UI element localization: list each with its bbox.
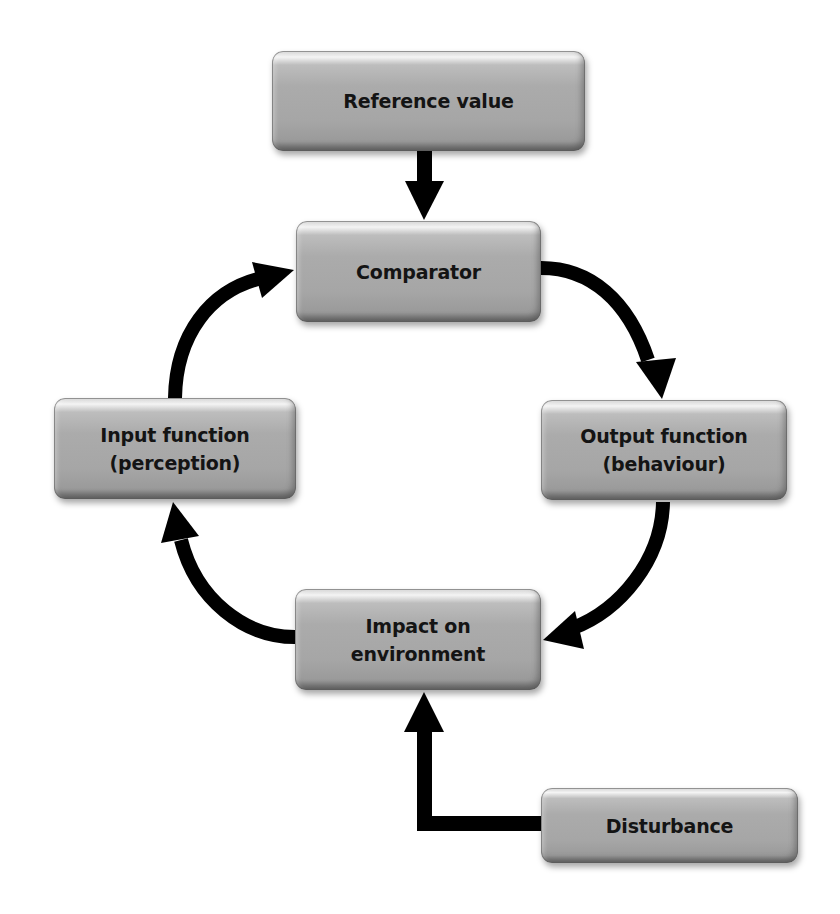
arrow-comparator-to-output — [541, 268, 676, 399]
input-function-label: Input function (perception) — [100, 421, 249, 477]
output-function-node: Output function (behaviour) — [541, 400, 787, 500]
reference-value-node: Reference value — [272, 51, 585, 151]
arrow-reference-to-comparator — [405, 151, 444, 220]
impact-on-environment-label: Impact on environment — [351, 612, 485, 668]
impact-on-environment-node: Impact on environment — [295, 589, 541, 690]
reference-value-label: Reference value — [343, 87, 513, 115]
arrow-disturbance-to-impact — [404, 692, 542, 831]
feedback-loop-diagram: Reference value Comparator Input functio… — [0, 0, 840, 914]
comparator-label: Comparator — [356, 258, 481, 286]
arrow-output-to-impact — [543, 502, 663, 649]
disturbance-node: Disturbance — [541, 788, 798, 863]
input-function-node: Input function (perception) — [54, 398, 296, 499]
arrow-input-to-comparator — [175, 262, 294, 398]
arrow-impact-to-input — [161, 502, 295, 637]
disturbance-label: Disturbance — [606, 812, 733, 840]
comparator-node: Comparator — [296, 221, 541, 322]
output-function-label: Output function (behaviour) — [580, 422, 747, 478]
